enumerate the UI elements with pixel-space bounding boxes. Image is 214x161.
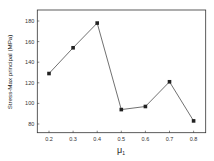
x-tick-label: 0.4 <box>93 136 101 142</box>
data-point-marker <box>71 46 75 50</box>
data-point-marker <box>168 80 172 84</box>
y-tick-label: 80 <box>28 121 34 127</box>
data-point-marker <box>47 72 51 76</box>
y-axis-title: Stress-Max principal (MPa) <box>6 35 13 110</box>
y-tick-label: 180 <box>25 18 34 24</box>
x-tick-label: 0.2 <box>45 136 53 142</box>
data-markers <box>47 21 195 122</box>
x-tick-label: 0.3 <box>69 136 77 142</box>
data-point-marker <box>192 119 196 123</box>
x-axis-title-subscript: 1 <box>122 150 125 156</box>
x-tick-label: 0.6 <box>142 136 150 142</box>
data-point-marker <box>120 108 124 112</box>
plot-frame <box>37 10 205 133</box>
data-line <box>49 23 194 121</box>
x-tick-label: 0.5 <box>117 136 125 142</box>
y-tick-label: 100 <box>25 100 34 106</box>
data-point-marker <box>95 21 99 25</box>
line-chart: 80100120140160180 0.20.30.40.50.60.70.8 … <box>0 0 214 161</box>
x-axis-title: μ1 <box>117 145 125 156</box>
x-tick-label: 0.7 <box>166 136 174 142</box>
y-tick-label: 140 <box>25 59 34 65</box>
y-tick-label: 160 <box>25 39 34 45</box>
x-tick-label: 0.8 <box>190 136 198 142</box>
data-point-marker <box>144 105 148 109</box>
y-tick-label: 120 <box>25 80 34 86</box>
